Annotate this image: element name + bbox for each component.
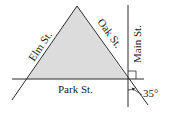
angle-label: 35° [143,87,158,99]
diagram-canvas: Elm St. Oak St. Main St. Park St. 35° [0,0,171,117]
street-diagram: Elm St. Oak St. Main St. Park St. 35° [0,0,171,117]
main-street-label: Main St. [131,25,143,63]
park-street-label: Park St. [58,83,93,95]
right-angle-marker [128,71,136,79]
